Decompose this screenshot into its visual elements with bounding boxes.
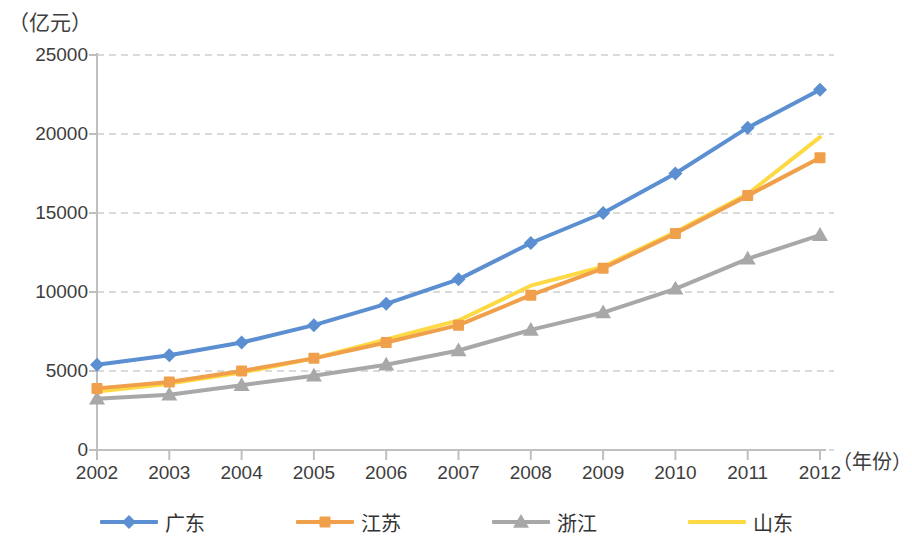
line-chart: （亿元） 0500010000150002000025000 200220032… (0, 0, 912, 539)
legend-label: 山东 (753, 508, 793, 537)
legend-label: 浙江 (557, 508, 597, 537)
legend-marker-icon (119, 512, 139, 532)
data-point-marker (453, 320, 464, 331)
data-point-marker (235, 336, 249, 350)
legend-item[interactable]: 山东 (688, 505, 793, 539)
data-point-marker (815, 152, 826, 163)
data-point-marker (379, 297, 393, 311)
data-point-marker (92, 383, 103, 394)
data-point-marker (236, 366, 247, 377)
legend-marker-icon (511, 512, 531, 532)
legend-item[interactable]: 江苏 (296, 505, 401, 539)
data-point-marker (381, 337, 392, 348)
data-point-marker (162, 348, 176, 362)
legend-label: 广东 (165, 508, 205, 537)
legend-label: 江苏 (361, 508, 401, 537)
legend-swatch (492, 512, 550, 532)
data-point-marker (525, 290, 536, 301)
legend-swatch (100, 512, 158, 532)
data-point-marker (307, 318, 321, 332)
legend-line (688, 520, 746, 524)
data-point-marker (524, 236, 538, 250)
x-axis-title: （年份） (832, 446, 912, 475)
series-line (97, 235, 820, 399)
plot-area (0, 0, 912, 539)
legend-swatch (296, 512, 354, 532)
data-point-marker (670, 228, 681, 239)
legend-marker-icon (315, 512, 335, 532)
legend-item[interactable]: 浙江 (492, 505, 597, 539)
legend-swatch (688, 512, 746, 532)
data-point-marker (813, 83, 827, 97)
data-point-marker (812, 227, 828, 241)
data-point-marker (598, 263, 609, 274)
chart-legend: 广东江苏浙江山东 (0, 505, 912, 539)
data-point-marker (90, 358, 104, 372)
data-point-marker (308, 353, 319, 364)
data-point-marker (513, 514, 529, 528)
legend-item[interactable]: 广东 (100, 505, 205, 539)
data-point-marker (452, 272, 466, 286)
data-point-marker (742, 190, 753, 201)
data-point-marker (122, 515, 136, 529)
data-point-marker (164, 377, 175, 388)
data-point-marker (320, 517, 331, 528)
